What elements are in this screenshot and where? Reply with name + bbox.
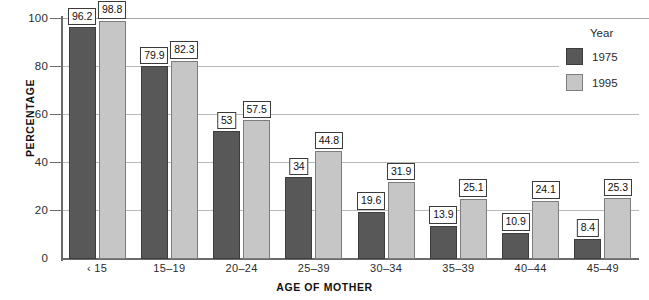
legend-item-label: 1975	[592, 51, 618, 63]
bar-value-label: 8.4	[577, 219, 599, 237]
bar-column: 31.9	[388, 0, 415, 259]
bar-1995[interactable]	[604, 198, 631, 259]
x-tick-label: 40–44	[495, 262, 567, 274]
bar-value-label: 53	[217, 112, 236, 130]
x-tick-label: ‹ 15	[61, 262, 133, 274]
bar-group: 13.925.1	[422, 0, 494, 259]
bars-layer: 96.298.879.982.35357.53444.819.631.913.9…	[61, 0, 639, 259]
bar-1975[interactable]	[502, 233, 529, 259]
bar-column: 19.6	[358, 0, 385, 259]
bar-value-label: 25.1	[459, 179, 487, 197]
legend-item-label: 1995	[592, 77, 618, 89]
bar-value-label: 24.1	[532, 181, 560, 199]
bar-1995[interactable]	[460, 199, 487, 259]
bar-column: 25.1	[460, 0, 487, 259]
x-tick-label: 35–39	[422, 262, 494, 274]
bar-column: 44.8	[315, 0, 342, 259]
legend-item-1975[interactable]: 1975	[566, 48, 646, 65]
x-axis-tick-labels: ‹ 1515–1920–2425–3930–3435–3940–4445–49	[61, 262, 639, 280]
bar-value-label: 34	[289, 158, 308, 176]
y-tick-label: 60	[2, 108, 48, 120]
bar-value-label: 57.5	[243, 101, 271, 119]
bar-group: 79.982.3	[133, 0, 205, 259]
x-tick-label: 45–49	[567, 262, 639, 274]
bar-value-label: 79.9	[140, 47, 168, 65]
x-tick-label: 30–34	[350, 262, 422, 274]
bar-value-label: 19.6	[357, 192, 385, 210]
bar-1975[interactable]	[430, 226, 457, 259]
bar-column: 96.2	[69, 0, 96, 259]
legend: Year 1975 1995	[566, 27, 646, 100]
x-tick-label: 25–39	[278, 262, 350, 274]
legend-item-1995[interactable]: 1995	[566, 74, 646, 91]
bar-1995[interactable]	[388, 182, 415, 259]
bar-value-label: 31.9	[387, 163, 415, 181]
bar-1975[interactable]	[285, 177, 312, 259]
bar-chart: PERCENTAGE 100 80 60 40 20 0 96.298.879.…	[0, 0, 649, 300]
y-tick-label: 100	[2, 12, 48, 24]
y-tick-label: 80	[2, 60, 48, 72]
bar-value-label: 10.9	[502, 213, 530, 231]
bar-1975[interactable]	[358, 212, 385, 259]
legend-swatch-icon	[566, 74, 583, 91]
bar-1975[interactable]	[141, 66, 168, 259]
y-tick-label: 20	[2, 204, 48, 216]
bar-column: 10.9	[502, 0, 529, 259]
bar-1975[interactable]	[574, 239, 601, 259]
y-tick-label: 40	[2, 156, 48, 168]
bar-column: 79.9	[141, 0, 168, 259]
bar-group: 5357.5	[206, 0, 278, 259]
x-tick-label: 20–24	[206, 262, 278, 274]
bar-value-label: 82.3	[170, 41, 198, 59]
bar-group: 96.298.8	[61, 0, 133, 259]
legend-swatch-icon	[566, 48, 583, 65]
bar-column: 57.5	[243, 0, 270, 259]
bar-1995[interactable]	[315, 151, 342, 259]
bar-column: 53	[213, 0, 240, 259]
bar-value-label: 98.8	[98, 1, 126, 19]
bar-value-label: 25.3	[604, 179, 632, 197]
bar-1975[interactable]	[69, 27, 96, 259]
bar-1995[interactable]	[171, 61, 198, 259]
y-axis-tick-labels: 100 80 60 40 20 0	[0, 0, 48, 300]
bar-column: 82.3	[171, 0, 198, 259]
bar-1995[interactable]	[99, 21, 126, 259]
bar-1995[interactable]	[243, 120, 270, 259]
x-tick-label: 15–19	[133, 262, 205, 274]
bar-column: 34	[285, 0, 312, 259]
bar-value-label: 96.2	[68, 8, 96, 26]
bar-1975[interactable]	[213, 131, 240, 259]
bar-column: 98.8	[99, 0, 126, 259]
legend-title: Year	[566, 27, 646, 39]
bar-group: 19.631.9	[350, 0, 422, 259]
bar-1995[interactable]	[532, 201, 559, 259]
bar-column: 13.9	[430, 0, 457, 259]
bar-group: 3444.8	[278, 0, 350, 259]
bar-group: 10.924.1	[495, 0, 567, 259]
bar-column: 24.1	[532, 0, 559, 259]
bar-value-label: 13.9	[429, 206, 457, 224]
x-axis-title: AGE OF MOTHER	[0, 281, 649, 293]
y-tick-label: 0	[2, 252, 48, 264]
bar-value-label: 44.8	[315, 132, 343, 150]
